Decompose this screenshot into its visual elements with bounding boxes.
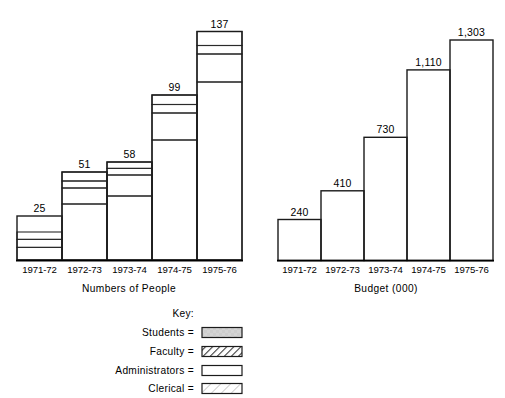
left-chart-axis-title: Numbers of People — [82, 283, 176, 294]
value-label-right-1: 410 — [333, 177, 351, 189]
tick-label-left-3: 1974-75 — [157, 264, 192, 275]
legend-label-administrators: Administrators = — [115, 365, 194, 376]
legend-label-students: Students = — [142, 327, 194, 338]
legend-swatch-clerical — [202, 384, 242, 394]
value-label-left-1: 51 — [78, 158, 90, 170]
legend-swatch-students — [202, 328, 242, 338]
tick-label-left-4: 1975-76 — [202, 264, 237, 275]
legend-item-students[interactable]: Students = — [142, 327, 242, 338]
chart-figure: 25 51 58 99 137 1971-72 1972-73 1973-74 … — [0, 0, 505, 398]
legend-swatch-administrators — [202, 366, 242, 376]
value-label-left-2: 58 — [123, 148, 135, 160]
tick-label-right-2: 1973-74 — [368, 264, 403, 275]
tick-label-right-0: 1971-72 — [282, 264, 317, 275]
tick-label-right-3: 1974-75 — [411, 264, 446, 275]
value-label-left-3: 99 — [168, 81, 180, 93]
tick-label-left-2: 1973-74 — [112, 264, 147, 275]
legend-label-faculty: Faculty = — [150, 346, 194, 357]
legend-item-administrators[interactable]: Administrators = — [115, 365, 242, 376]
value-label-right-2: 730 — [376, 123, 394, 135]
right-chart-axis-title: Budget (000) — [354, 283, 418, 294]
tick-label-left-0: 1971-72 — [22, 264, 57, 275]
legend-title: Key: — [172, 308, 194, 319]
value-label-right-3: 1,110 — [415, 56, 442, 68]
tick-label-left-1: 1972-73 — [67, 264, 102, 275]
value-label-left-4: 137 — [210, 18, 228, 30]
legend-label-clerical: Clerical = — [148, 383, 194, 394]
tick-label-right-1: 1972-73 — [325, 264, 360, 275]
tick-label-right-4: 1975-76 — [454, 264, 489, 275]
legend-swatch-faculty — [202, 347, 242, 357]
value-label-right-0: 240 — [290, 206, 308, 218]
value-label-right-4: 1,303 — [458, 26, 485, 38]
value-label-left-0: 25 — [33, 202, 45, 214]
